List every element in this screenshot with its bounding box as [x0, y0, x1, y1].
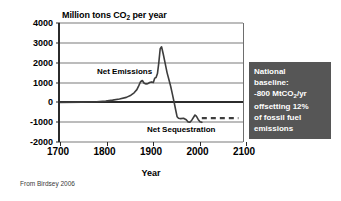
- y-tick-label--2000: -2000: [0, 137, 53, 147]
- callout-subscript: 2: [294, 93, 297, 99]
- series-net-carbon-flux: [60, 47, 202, 123]
- x-tick-label-1700: 1700: [47, 146, 69, 157]
- y-tick-label-1000: 1000: [0, 78, 53, 88]
- callout-line-5: of fossil fuel: [254, 112, 327, 123]
- callout-line-2: baseline:: [254, 77, 327, 88]
- annotation-net-sequestration: Net Sequestration: [146, 125, 216, 134]
- annotation-net-emissions: Net Emissions: [96, 67, 153, 76]
- x-axis-title: Year: [58, 168, 244, 178]
- x-tick-label-1800: 1800: [93, 146, 115, 157]
- y-tick-label-3000: 3000: [0, 38, 53, 48]
- y-tick-label-0: 0: [0, 97, 53, 107]
- chart-title-subscript: 2: [127, 14, 131, 21]
- callout-national-baseline: National baseline: -800 MtCO2/yr offsett…: [249, 62, 331, 139]
- y-tick-label-2000: 2000: [0, 58, 53, 68]
- callout-line-6: emissions: [254, 123, 327, 134]
- y-tick-label--1000: -1000: [0, 117, 53, 127]
- chart-title-pre: Million tons CO: [62, 10, 127, 20]
- x-tick-label-1900: 1900: [140, 146, 162, 157]
- figure-co2-flux: Million tons CO2 per year Net Emissions …: [0, 0, 341, 201]
- callout-line-3: -800 MtCO2/yr: [254, 88, 327, 100]
- callout-line-4: offsetting 12%: [254, 101, 327, 112]
- chart-title: Million tons CO2 per year: [62, 10, 167, 20]
- x-tick-label-2100: 2100: [233, 146, 255, 157]
- plot-area: Net Emissions Net Sequestration: [58, 23, 244, 142]
- chart-title-post: per year: [130, 10, 167, 20]
- source-caption: From Birdsey 2006: [20, 180, 75, 187]
- x-tick-label-2000: 2000: [186, 146, 208, 157]
- y-tick-label-4000: 4000: [0, 18, 53, 28]
- callout-line-1: National: [254, 66, 327, 77]
